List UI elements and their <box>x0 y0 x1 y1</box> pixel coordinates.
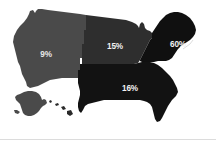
midwest-region-shape <box>82 15 152 64</box>
northeast-region-label: 60% <box>170 40 187 49</box>
bottom-divider <box>0 139 216 140</box>
alaska-aleutian-tail <box>14 110 20 114</box>
hawaii-island-3 <box>61 106 66 110</box>
map-inset-hawaii[interactable] <box>49 100 73 116</box>
west-region-label: 9% <box>40 50 52 59</box>
map-inset-alaska[interactable] <box>14 91 47 116</box>
midwest-region-label: 15% <box>107 42 124 51</box>
alaska-shape <box>15 91 47 116</box>
west-region-shape <box>13 9 86 88</box>
map-region-west[interactable]: 9% <box>13 9 86 88</box>
south-region-label: 16% <box>122 84 139 93</box>
us-region-map-figure: 9% 15% 16% 60% <box>0 0 216 144</box>
map-region-midwest[interactable]: 15% <box>82 15 152 64</box>
us-map-svg: 9% 15% 16% 60% <box>0 0 216 144</box>
map-region-south[interactable]: 16% <box>78 62 178 122</box>
hawaii-island-4 <box>67 110 73 116</box>
hawaii-island-1 <box>49 100 52 103</box>
hawaii-island-2 <box>55 103 59 106</box>
